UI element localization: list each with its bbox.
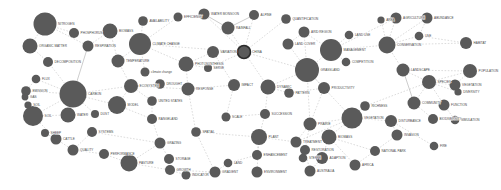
graph-node-cattle[interactable]: [51, 134, 62, 145]
graph-node-label-cattle: CATTLE: [63, 137, 75, 141]
graph-node-national-park[interactable]: [370, 146, 380, 156]
graph-node-carbon[interactable]: [60, 81, 87, 108]
graph-node-gradient[interactable]: [210, 167, 221, 178]
graph-node-china[interactable]: [238, 46, 251, 59]
graph-node-biomass[interactable]: [103, 24, 118, 39]
graph-node-label-storage: STORAGE: [176, 157, 191, 161]
graph-node-label-environment: ENVIRONMENT: [264, 170, 287, 174]
graph-node-performance[interactable]: [99, 149, 109, 159]
graph-node-climate-change-lower[interactable]: [141, 68, 150, 77]
graph-node-land[interactable]: [224, 159, 233, 168]
graph-node-label-disturbance: DISTURBANCE: [399, 119, 421, 123]
graph-node-invasion[interactable]: [392, 130, 403, 141]
graph-node-indicator[interactable]: [182, 171, 191, 180]
graph-node-australia[interactable]: [305, 166, 316, 177]
graph-node-vegetation[interactable]: [342, 108, 363, 129]
graph-node-growth[interactable]: [165, 165, 175, 175]
graph-node-enhancement[interactable]: [252, 150, 262, 160]
graph-node-organic-matter[interactable]: [23, 39, 38, 54]
graph-node-competition[interactable]: [342, 58, 351, 67]
graph-node-response[interactable]: [182, 83, 195, 96]
graph-node-grassland[interactable]: [295, 58, 319, 82]
graph-node-richness[interactable]: [360, 101, 370, 111]
graph-node-disturbance[interactable]: [385, 115, 397, 127]
graph-node-scale[interactable]: [222, 113, 231, 122]
graph-node-label-management: MANAGEMENT: [344, 48, 366, 52]
graph-node-temperature[interactable]: [112, 55, 125, 68]
graph-node-systems[interactable]: [87, 127, 97, 137]
graph-node-label-restoration: RESTORATION: [312, 148, 334, 152]
graph-node-productivity[interactable]: [318, 82, 330, 94]
graph-node-storage[interactable]: [164, 154, 174, 164]
graph-node-label-conservation: CONSERVATION: [397, 43, 421, 47]
graph-node-water[interactable]: [61, 108, 76, 123]
graph-node-label-diversity: DIVERSITY: [463, 90, 479, 94]
graph-node-land-use[interactable]: [345, 31, 354, 40]
graph-node-community[interactable]: [408, 97, 421, 110]
graph-node-management[interactable]: [320, 39, 342, 61]
graph-node-flux[interactable]: [32, 75, 41, 84]
graph-node-phosphorus[interactable]: [69, 28, 79, 38]
graph-node-ecosystem[interactable]: [124, 79, 138, 93]
graph-node-dynamic[interactable]: [261, 80, 276, 95]
graph-node-diversity[interactable]: [454, 88, 461, 95]
graph-node-label-grazing: GRAZING: [167, 141, 182, 145]
graph-node-area[interactable]: [377, 16, 384, 23]
graph-node-united-states[interactable]: [147, 96, 157, 106]
graph-node-succession[interactable]: [260, 109, 270, 119]
graph-node-africa[interactable]: [350, 160, 361, 171]
graph-node-arid-region[interactable]: [299, 27, 310, 38]
graph-node-sheep[interactable]: [41, 129, 49, 137]
graph-node-label-species: SPECIES: [438, 80, 451, 84]
graph-node-population[interactable]: [463, 64, 477, 78]
graph-node-nitrogen[interactable]: [34, 13, 57, 36]
graph-node-quality[interactable]: [68, 145, 79, 156]
graph-node-use[interactable]: [415, 32, 424, 41]
graph-node-availability[interactable]: [138, 16, 148, 26]
graph-node-land-cover[interactable]: [283, 39, 294, 50]
graph-node-variation[interactable]: [207, 46, 219, 58]
graph-node-steppe[interactable]: [299, 154, 308, 163]
graph-node-soil[interactable]: [23, 106, 43, 126]
graph-node-climate-change-caps[interactable]: [129, 33, 151, 55]
graph-node-respiration[interactable]: [83, 41, 94, 52]
graph-node-plant[interactable]: [251, 129, 267, 145]
graph-node-biomass-2[interactable]: [322, 130, 337, 145]
graph-node-fire[interactable]: [430, 142, 439, 151]
graph-node-alpine[interactable]: [249, 10, 259, 20]
graph-node-rainfall[interactable]: [222, 22, 235, 35]
graph-node-label-vegetation: VEGETATION: [364, 116, 383, 120]
graph-node-grazing[interactable]: [155, 138, 166, 149]
graph-node-treatment[interactable]: [291, 137, 302, 148]
graph-node-label-efficiency: EFFICIENCY: [184, 15, 202, 19]
graph-node-dust[interactable]: [91, 110, 99, 118]
network-graph-svg[interactable]: NITROGENORGANIC MATTERPHOSPHORUSBIOMASSR…: [0, 0, 501, 190]
network-graph-canvas[interactable]: NITROGENORGANIC MATTERPHOSPHORUSBIOMASSR…: [0, 0, 501, 190]
graph-node-label-climate-change-lower: climate change: [151, 70, 172, 74]
graph-node-restoration[interactable]: [300, 145, 310, 155]
graph-node-environment[interactable]: [252, 167, 263, 178]
graph-node-prairie[interactable]: [304, 118, 317, 131]
graph-node-pattern[interactable]: [284, 88, 294, 98]
graph-node-efficiency[interactable]: [174, 13, 183, 22]
graph-node-pasture[interactable]: [121, 155, 138, 172]
graph-node-label-invasion: INVASION: [404, 133, 419, 137]
graph-node-model[interactable]: [108, 96, 126, 114]
graph-node-gas[interactable]: [22, 94, 29, 101]
graph-node-label-fire: FIRE: [440, 144, 447, 148]
graph-node-label-biomass: BIOMASS: [119, 29, 133, 33]
graph-node-photosynthesis[interactable]: [179, 57, 194, 72]
graph-node-impact[interactable]: [228, 79, 240, 91]
graph-node-biodiversity[interactable]: [428, 114, 438, 124]
graph-node-decomposition[interactable]: [43, 57, 53, 67]
graph-node-label-nitrogen: NITROGEN: [58, 22, 74, 26]
graph-node-habitat[interactable]: [460, 37, 472, 49]
graph-node-species[interactable]: [422, 75, 436, 89]
graph-node-rangeland[interactable]: [147, 114, 157, 124]
graph-node-quantification[interactable]: [281, 14, 291, 24]
graph-node-conservation[interactable]: [379, 37, 396, 54]
graph-node-label-productivity: PRODUCTIVITY: [332, 86, 355, 90]
graph-node-spatial[interactable]: [191, 127, 201, 137]
graph-node-landscape[interactable]: [397, 64, 410, 77]
graph-node-label-simulation: SIMULATION: [461, 118, 480, 122]
